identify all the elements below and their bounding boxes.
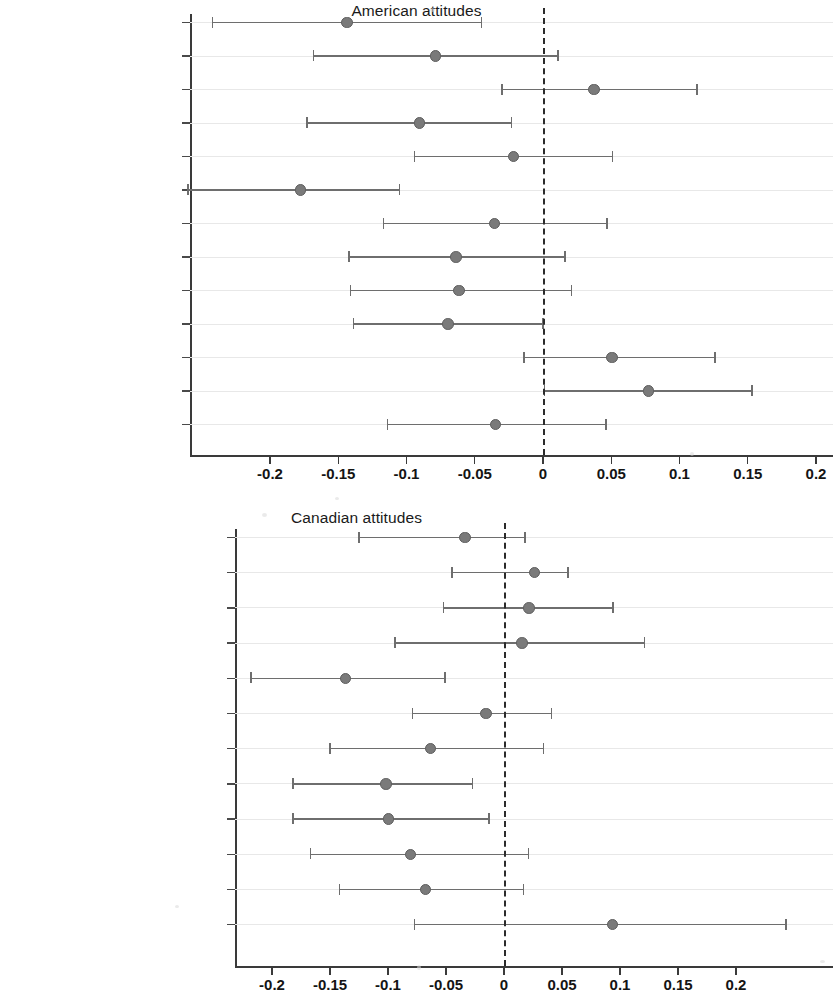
- x-axis-tick: [271, 968, 272, 975]
- y-axis-tick: [182, 156, 190, 157]
- ci-cap-high: [785, 919, 787, 930]
- zero-reference-line: [543, 8, 545, 455]
- ci-cap-low: [350, 285, 352, 296]
- estimate-point: [529, 567, 541, 579]
- ci-cap-high: [543, 743, 545, 754]
- estimate-point: [380, 778, 392, 790]
- ci-cap-low: [310, 848, 312, 859]
- y-axis-tick: [227, 783, 235, 784]
- estimate-point: [405, 849, 417, 861]
- ci-cap-high: [557, 50, 559, 61]
- scan-artifact: [430, 8, 435, 12]
- x-axis-tick: [269, 457, 270, 464]
- estimate-point: [341, 17, 353, 29]
- estimate-point: [523, 602, 535, 614]
- scan-artifact: [262, 513, 267, 517]
- y-axis-tick: [227, 537, 235, 538]
- y-axis-tick: [227, 642, 235, 643]
- y-axis-tick: [227, 607, 235, 608]
- scan-artifact: [417, 965, 421, 970]
- y-axis-tick: [227, 572, 235, 573]
- y-axis-tick: [227, 678, 235, 679]
- confidence-interval-bar: [452, 572, 568, 574]
- ci-cap-high: [696, 84, 698, 95]
- ci-cap-low: [187, 184, 189, 195]
- ci-cap-low: [329, 743, 331, 754]
- x-axis-tick: [387, 968, 388, 975]
- estimate-point: [430, 50, 442, 62]
- estimate-point: [480, 708, 492, 720]
- scan-artifact: [820, 960, 825, 963]
- y-axis-tick: [182, 89, 190, 90]
- estimate-point: [489, 218, 501, 230]
- y-axis-tick: [182, 290, 190, 291]
- ci-cap-low: [358, 532, 360, 543]
- x-axis-tick: [329, 968, 330, 975]
- y-axis-tick: [227, 854, 235, 855]
- ci-cap-high: [472, 778, 474, 789]
- x-axis-tick: [677, 968, 678, 975]
- zero-reference-line: [504, 523, 506, 966]
- gridline: [235, 889, 833, 890]
- estimate-point: [459, 532, 471, 544]
- ci-cap-low: [348, 251, 350, 262]
- y-axis-tick: [227, 818, 235, 819]
- confidence-interval-bar: [188, 189, 400, 191]
- confidence-interval-bar: [310, 854, 528, 856]
- estimate-point: [606, 352, 618, 364]
- gridline: [235, 537, 833, 538]
- ci-cap-low: [250, 672, 252, 683]
- x-axis-tick: [406, 457, 407, 464]
- confidence-interval-bar: [330, 748, 543, 750]
- ci-cap-low: [387, 419, 389, 430]
- gridline: [190, 357, 833, 358]
- ci-cap-high: [523, 884, 525, 895]
- ci-cap-low: [414, 151, 416, 162]
- y-axis-tick: [182, 424, 190, 425]
- confidence-interval-bar: [524, 357, 715, 359]
- x-axis-tick: [561, 968, 562, 975]
- y-axis-tick: [182, 390, 190, 391]
- ci-cap-low: [292, 778, 294, 789]
- ci-cap-high: [524, 532, 526, 543]
- ci-cap-low: [523, 352, 525, 363]
- ci-cap-high: [528, 848, 530, 859]
- estimate-point: [490, 419, 502, 431]
- y-axis-tick: [227, 924, 235, 925]
- estimate-point: [643, 385, 655, 397]
- x-axis-tick: [445, 968, 446, 975]
- ci-cap-high: [399, 184, 401, 195]
- ci-cap-low: [292, 813, 294, 824]
- y-axis-tick: [182, 223, 190, 224]
- estimate-point: [442, 318, 454, 330]
- y-axis-tick: [227, 713, 235, 714]
- ci-cap-low: [313, 50, 315, 61]
- estimate-point: [607, 919, 619, 931]
- forest-plot-figure: American attitudes Same-sex marriageAdmi…: [0, 0, 833, 1007]
- y-axis-tick: [182, 55, 190, 56]
- ci-cap-high: [714, 352, 716, 363]
- ci-cap-high: [488, 813, 490, 824]
- ci-cap-low: [443, 602, 445, 613]
- confidence-interval-bar: [415, 924, 786, 926]
- scan-artifact: [175, 905, 179, 908]
- ci-cap-high: [551, 708, 553, 719]
- y-axis-tick: [182, 122, 190, 123]
- ci-cap-high: [605, 419, 607, 430]
- ci-cap-high: [751, 385, 753, 396]
- y-axis-tick: [182, 323, 190, 324]
- ci-cap-low: [412, 708, 414, 719]
- ci-cap-high: [606, 218, 608, 229]
- estimate-point: [420, 884, 432, 896]
- x-axis-tick: [542, 457, 543, 464]
- estimate-point: [516, 637, 528, 649]
- x-axis-tick: [679, 457, 680, 464]
- estimate-point: [340, 673, 352, 685]
- x-axis-tick: [503, 968, 504, 975]
- y-axis-tick: [227, 748, 235, 749]
- ci-cap-low: [353, 318, 355, 329]
- ci-cap-low: [306, 117, 308, 128]
- x-axis-tick: [338, 457, 339, 464]
- ci-cap-high: [481, 17, 483, 28]
- chart-title-american: American attitudes: [0, 2, 833, 20]
